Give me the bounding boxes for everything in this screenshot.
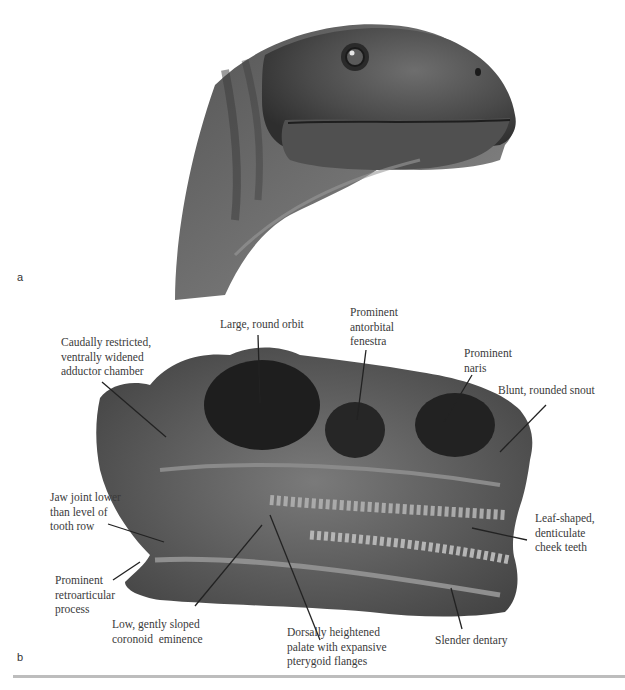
callout-jaw-joint: Jaw joint lower than level of tooth row xyxy=(50,490,121,534)
callout-adductor-chamber: Caudally restricted, ventrally widened a… xyxy=(61,335,151,379)
skull-photo xyxy=(96,348,532,617)
callout-coronoid-eminence: Low, gently sloped coronoid eminence xyxy=(112,617,203,646)
panel-label-a: a xyxy=(17,271,23,283)
callout-cheek-teeth: Leaf-shaped, denticulate cheek teeth xyxy=(535,511,595,555)
callout-palate: Dorsally heightened palate with expansiv… xyxy=(287,625,387,669)
bottom-divider xyxy=(13,675,625,678)
panel-label-b: b xyxy=(17,651,23,663)
callout-orbit: Large, round orbit xyxy=(220,317,304,332)
callout-antorbital-fenestra: Prominent antorbital fenestra xyxy=(350,305,398,349)
callout-snout: Blunt, rounded snout xyxy=(498,383,595,398)
callout-retroarticular-process: Prominent retroarticular process xyxy=(55,573,115,617)
callout-dentary: Slender dentary xyxy=(435,633,508,648)
callout-naris: Prominent naris xyxy=(464,346,512,375)
head-illustration xyxy=(175,24,516,300)
